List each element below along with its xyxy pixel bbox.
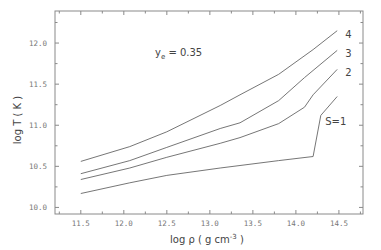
x-tick-label: 14.0 xyxy=(287,219,306,228)
x-axis-label: log ρ ( g cm-3 ) xyxy=(170,233,244,245)
x-tick-label: 13.5 xyxy=(244,219,262,228)
axes-frame xyxy=(55,11,363,214)
curve-label-S-1: S=1 xyxy=(325,116,346,127)
x-tick-label: 13.0 xyxy=(201,219,220,228)
y-tick-label: 12.0 xyxy=(29,39,48,48)
curves xyxy=(81,31,337,194)
curve-4 xyxy=(81,31,337,162)
curve-label-4: 4 xyxy=(345,29,351,40)
x-axis-ticks: 11.512.012.513.013.514.014.5 xyxy=(59,11,360,228)
curve-label-2: 2 xyxy=(345,67,351,78)
x-tick-label: 12.5 xyxy=(158,219,176,228)
x-tick-label: 14.5 xyxy=(330,219,348,228)
electron-fraction-annotation: ye = 0.35 xyxy=(155,47,202,61)
curve-3 xyxy=(81,50,337,173)
plot-area: 11.512.012.513.013.514.014.5 10.010.511.… xyxy=(0,0,381,250)
x-tick-label: 12.0 xyxy=(115,219,134,228)
y-tick-label: 10.0 xyxy=(29,203,48,212)
curve-label-3: 3 xyxy=(345,48,351,59)
y-axis-label: log T ( K ) xyxy=(2,60,32,180)
x-tick-label: 11.5 xyxy=(72,219,90,228)
